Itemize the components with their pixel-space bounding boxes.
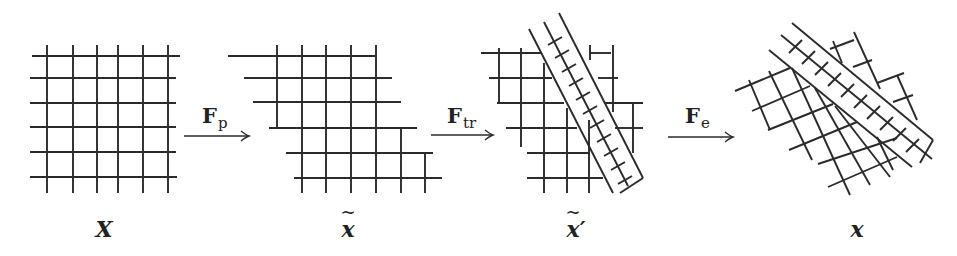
- grid-line: [893, 95, 913, 102]
- grid-line: [544, 22, 628, 186]
- operator-label-F-e: Fe: [685, 103, 710, 128]
- stage-label-x-tilde-prime: x′: [567, 216, 586, 242]
- grid-line: [792, 23, 933, 140]
- arrow-F-p: [184, 131, 249, 141]
- operator-symbol: F: [447, 103, 462, 128]
- stage-label-X: X: [95, 216, 112, 242]
- grid-line: [768, 104, 833, 130]
- grid-x-tilde-prime: [481, 13, 643, 193]
- operator-symbol: F: [685, 103, 700, 128]
- operator-symbol: F: [202, 103, 217, 128]
- grid-line: [854, 32, 880, 89]
- stage-symbol: x: [341, 216, 354, 242]
- stage-symbol: X: [95, 216, 112, 242]
- grid-line: [792, 68, 850, 195]
- grid-X: [30, 45, 180, 193]
- arrow-F-e: [668, 132, 733, 142]
- arrow-F-tr: [431, 130, 493, 140]
- stage-symbol: x: [850, 216, 863, 242]
- grid-line: [618, 176, 632, 184]
- operator-label-F-tr: Ftr: [447, 103, 476, 128]
- grid-line: [735, 68, 790, 91]
- operator-subscript: tr: [463, 114, 476, 132]
- grid-x: [735, 23, 933, 195]
- grid-line: [893, 128, 906, 141]
- stage-label-x: x: [850, 216, 863, 242]
- operator-subscript: p: [218, 114, 228, 132]
- grid-x-tilde: [228, 45, 442, 193]
- diagram-canvas: [0, 0, 957, 256]
- stage-label-x-tilde: x: [341, 216, 354, 242]
- grid-line: [611, 162, 625, 170]
- operator-label-F-p: Fp: [202, 103, 228, 128]
- operator-subscript: e: [701, 114, 710, 132]
- stage-symbol: x: [567, 216, 580, 242]
